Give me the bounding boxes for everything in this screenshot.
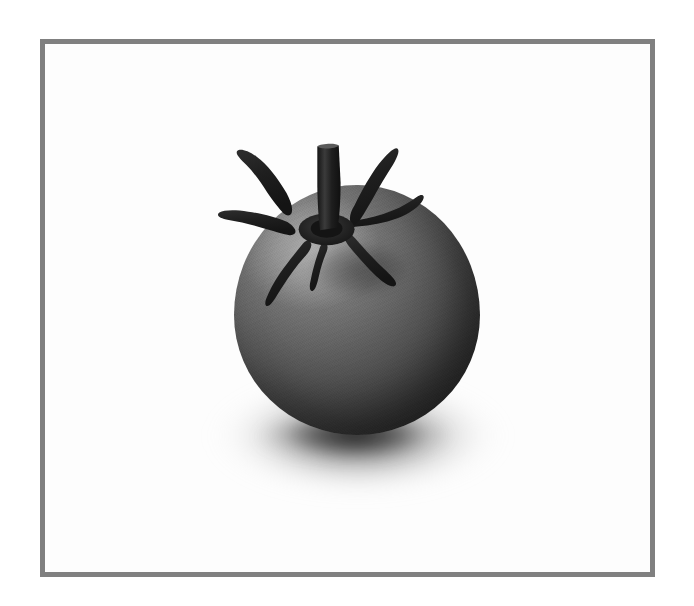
photo-plate: [45, 44, 650, 572]
image-canvas: Tomato: [0, 0, 694, 606]
tomato-body: [234, 185, 480, 435]
stem-well-depression: [294, 237, 422, 307]
sepal-upper-left: [237, 150, 292, 216]
tomato-skin-grain: [234, 185, 480, 435]
photo-frame: [40, 39, 655, 577]
stem-cut-top: [317, 144, 338, 149]
